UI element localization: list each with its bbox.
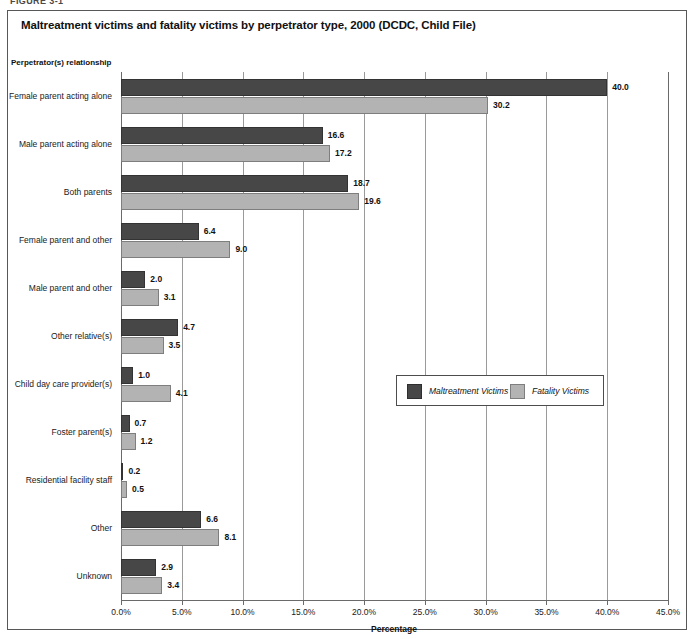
bar-maltreatment <box>121 415 130 432</box>
bar-maltreatment <box>121 511 201 528</box>
bar-value-label: 4.1 <box>176 388 188 398</box>
bar-fatality <box>121 193 359 210</box>
gridline <box>364 72 365 600</box>
x-tick-label: 40.0% <box>595 607 619 617</box>
category-label-text: Other <box>91 523 112 533</box>
bar-value-label: 30.2 <box>493 100 510 110</box>
bar-value-label: 16.6 <box>328 130 345 140</box>
category-label-text: Residential facility staff <box>26 475 112 485</box>
x-tick-mark <box>364 600 365 605</box>
category-label-text: Female parent and other <box>19 235 112 245</box>
bar-value-label: 18.7 <box>353 178 370 188</box>
x-tick-mark <box>303 600 304 605</box>
bar-fatality <box>121 241 230 258</box>
x-tick-label: 25.0% <box>413 607 437 617</box>
bar-value-label: 40.0 <box>612 82 629 92</box>
bar-fatality <box>121 481 127 498</box>
bar-value-label: 3.4 <box>167 580 179 590</box>
x-tick-label: 30.0% <box>474 607 498 617</box>
bar-maltreatment <box>121 271 145 288</box>
bar-value-label: 1.2 <box>141 436 153 446</box>
bar-maltreatment <box>121 367 133 384</box>
bar-value-label: 8.1 <box>224 532 236 542</box>
bar-fatality <box>121 289 159 306</box>
x-tick-label: 10.0% <box>230 607 254 617</box>
bar-fatality <box>121 529 219 546</box>
category-label-text: Both parents <box>64 187 112 197</box>
x-tick-mark <box>243 600 244 605</box>
x-tick-label: 45.0% <box>656 607 680 617</box>
bar-maltreatment <box>121 463 123 480</box>
chart-legend: Maltreatment Victims Fatality Victims <box>396 375 604 406</box>
bar-fatality <box>121 433 136 450</box>
figure-page: FIGURE 3-1 Maltreatment victims and fata… <box>0 0 695 639</box>
bar-value-label: 17.2 <box>335 148 352 158</box>
bar-value-label: 0.7 <box>135 418 147 428</box>
bar-maltreatment <box>121 319 178 336</box>
bar-value-label: 3.1 <box>164 292 176 302</box>
legend-swatch-maltreatment-icon <box>407 384 422 399</box>
category-label-text: Child day care provider(s) <box>15 379 112 389</box>
x-axis-title: Percentage <box>371 624 417 634</box>
scan-header-text: FIGURE 3-1 <box>10 0 64 6</box>
bar-fatality <box>121 145 330 162</box>
x-tick-mark <box>182 600 183 605</box>
chart-title: Maltreatment victims and fatality victim… <box>21 19 476 31</box>
legend-label-fatality: Fatality Victims <box>532 386 589 396</box>
gridline <box>546 72 547 600</box>
bar-value-label: 2.9 <box>161 562 173 572</box>
bar-value-label: 2.0 <box>150 274 162 284</box>
category-label-text: Female parent acting alone <box>9 91 112 101</box>
plot-right-border <box>668 72 669 601</box>
bar-value-label: 6.6 <box>206 514 218 524</box>
bar-maltreatment <box>121 175 348 192</box>
bar-value-label: 3.5 <box>169 340 181 350</box>
x-tick-label: 0.0% <box>111 607 130 617</box>
gridline <box>486 72 487 600</box>
legend-swatch-fatality-icon <box>510 384 525 399</box>
bar-value-label: 6.4 <box>204 226 216 236</box>
category-label-text: Foster parent(s) <box>52 427 112 437</box>
x-tick-label: 15.0% <box>291 607 315 617</box>
bar-maltreatment <box>121 559 156 576</box>
bar-value-label: 4.7 <box>183 322 195 332</box>
bar-value-label: 19.6 <box>364 196 381 206</box>
x-tick-mark <box>546 600 547 605</box>
x-tick-mark <box>425 600 426 605</box>
bar-maltreatment <box>121 223 199 240</box>
bar-value-label: 0.2 <box>128 466 140 476</box>
x-tick-mark <box>668 600 669 605</box>
bar-value-label: 0.5 <box>132 484 144 494</box>
legend-label-maltreatment: Maltreatment Victims <box>429 386 508 396</box>
legend-item-maltreatment: Maltreatment Victims <box>407 383 508 399</box>
bar-fatality <box>121 97 488 114</box>
x-tick-mark <box>486 600 487 605</box>
bar-maltreatment <box>121 79 607 96</box>
gridline <box>607 72 608 600</box>
category-label-text: Other relative(s) <box>51 331 112 341</box>
bar-fatality <box>121 577 162 594</box>
x-tick-label: 5.0% <box>172 607 191 617</box>
category-label-text: Male parent acting alone <box>19 139 112 149</box>
bar-value-label: 1.0 <box>138 370 150 380</box>
bar-value-label: 9.0 <box>235 244 247 254</box>
bar-fatality <box>121 337 164 354</box>
gridline <box>425 72 426 600</box>
x-tick-label: 35.0% <box>534 607 558 617</box>
bar-fatality <box>121 385 171 402</box>
plot-bottom-axis <box>121 600 669 601</box>
legend-item-fatality: Fatality Victims <box>510 383 589 399</box>
x-tick-mark <box>121 600 122 605</box>
x-tick-mark <box>607 600 608 605</box>
category-label-text: Male parent and other <box>29 283 112 293</box>
bar-maltreatment <box>121 127 323 144</box>
category-label-text: Unknown <box>77 571 112 581</box>
y-axis-title: Perpetrator(s) relationship <box>11 58 111 67</box>
x-tick-label: 20.0% <box>352 607 376 617</box>
